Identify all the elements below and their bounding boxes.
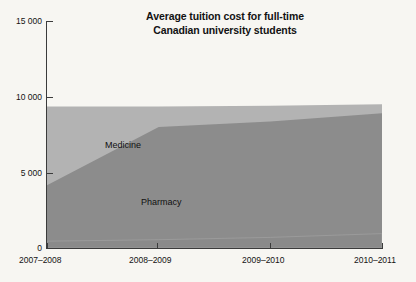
x-axis-label-2009-2010: 2009–2010 xyxy=(242,255,285,265)
x-axis-spine xyxy=(46,248,383,249)
x-tick-2008-2009 xyxy=(157,243,158,249)
area-chart-svg xyxy=(47,21,382,248)
x-axis-label-2008-2009: 2008–2009 xyxy=(129,255,172,265)
y-tick-5000 xyxy=(47,173,53,174)
x-tick-2007-2008 xyxy=(47,243,48,249)
x-tick-2010-2011 xyxy=(382,243,383,249)
series-label-pharmacy: Pharmacy xyxy=(141,197,182,207)
y-axis-label-10000: 10 000 xyxy=(2,93,42,102)
x-axis-label-2007-2008: 2007–2008 xyxy=(19,255,62,265)
x-axis-label-2010-2011: 2010–2011 xyxy=(354,255,396,265)
series-label-medicine: Medicine xyxy=(105,140,141,150)
y-axis-label-5000: 5 000 xyxy=(2,169,42,178)
y-axis-spine xyxy=(46,21,47,249)
y-tick-15000 xyxy=(47,21,53,22)
plot-area: Medicine Pharmacy xyxy=(47,21,382,248)
x-tick-2009-2010 xyxy=(270,243,271,249)
y-axis-label-15000: 15 000 xyxy=(2,17,42,26)
y-tick-10000 xyxy=(47,97,53,98)
y-axis-label-0: 0 xyxy=(2,244,42,253)
chart-figure: Average tuition cost for full-time Canad… xyxy=(0,0,416,282)
